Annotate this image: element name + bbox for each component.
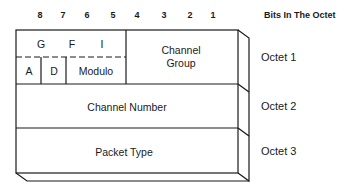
bit-6-label: 6: [84, 11, 89, 20]
bottom-depth-face: [16, 173, 249, 181]
gfi-f-label: F: [69, 39, 75, 50]
gfi-g-label: G: [37, 39, 45, 50]
right-depth-face: [238, 30, 249, 181]
packet-header-diagram: [0, 0, 347, 194]
channel-group-label-line2: Group: [166, 58, 195, 69]
octet-1-label: Octet 1: [261, 52, 296, 63]
field-d-label: D: [50, 66, 58, 77]
gfi-i-label: I: [101, 39, 104, 50]
channel-number-label: Channel Number: [87, 102, 166, 113]
field-a-label: A: [25, 66, 32, 77]
bit-8-label: 8: [37, 11, 42, 20]
channel-group-label-line1: Channel: [161, 45, 200, 56]
bit-5-label: 5: [110, 11, 115, 20]
bit-4-label: 4: [134, 11, 139, 20]
bit-2-label: 2: [187, 11, 192, 20]
packet-type-label: Packet Type: [95, 147, 153, 158]
bit-1-label: 1: [210, 11, 215, 20]
field-modulo-label: Modulo: [79, 66, 113, 77]
bit-3-label: 3: [161, 11, 166, 20]
bits-in-octet-title: Bits In The Octet: [264, 11, 336, 20]
octet-2-label: Octet 2: [261, 101, 296, 112]
octet-3-label: Octet 3: [261, 146, 296, 157]
bit-7-label: 7: [60, 11, 65, 20]
